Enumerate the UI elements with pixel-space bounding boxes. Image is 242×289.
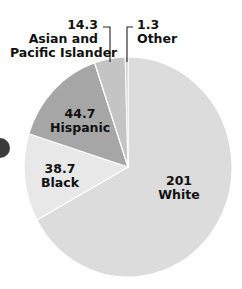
label-other-name: Other (137, 32, 177, 46)
label-hispanic: 44.7 Hispanic (50, 107, 110, 135)
label-asian-value: 14.3 (10, 18, 98, 32)
label-asian-name-line1: Asian and (10, 32, 98, 46)
label-asian-name-line2: Pacific Islander (10, 46, 98, 60)
label-black-value: 38.7 (38, 162, 82, 176)
label-asian-pacific-islander: 14.3 Asian and Pacific Islander (10, 18, 98, 60)
label-other-value: 1.3 (137, 18, 177, 32)
label-white: 201 White (154, 174, 204, 202)
label-black: 38.7 Black (38, 162, 82, 190)
label-white-name: White (154, 188, 204, 202)
label-white-value: 201 (154, 174, 204, 188)
label-hispanic-value: 44.7 (50, 107, 110, 121)
label-black-name: Black (38, 176, 82, 190)
label-hispanic-name: Hispanic (50, 121, 110, 135)
label-other: 1.3 Other (137, 18, 177, 46)
